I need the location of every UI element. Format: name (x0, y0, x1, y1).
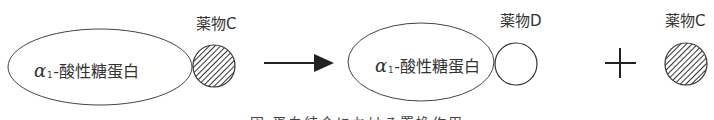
alpha-symbol: α (34, 60, 46, 81)
protein-label-right: α1-酸性糖蛋白 (375, 53, 480, 77)
drug-d-circle (495, 43, 537, 85)
protein-name: -酸性糖蛋白 (53, 62, 139, 81)
figure-caption: 図 蛋白結合における置換作用 (0, 112, 714, 120)
protein-label-left: α1-酸性糖蛋白 (34, 58, 139, 82)
drug-c-circle-free (665, 43, 707, 85)
plus-icon (605, 48, 636, 78)
drug-c-label-free: 薬物C (665, 9, 705, 30)
arrow-right-icon (264, 54, 334, 72)
alpha-subscript: 1 (47, 71, 52, 80)
protein-name: -酸性糖蛋白 (394, 57, 480, 76)
drug-c-label-left: 薬物C (196, 12, 236, 33)
drug-d-label: 薬物D (500, 9, 542, 30)
drug-c-circle-left (193, 45, 235, 87)
alpha-symbol: α (375, 55, 387, 76)
alpha-subscript: 1 (388, 66, 393, 75)
